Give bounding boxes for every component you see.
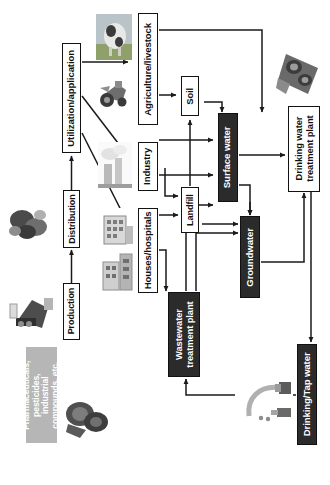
hospital-building-photo	[100, 248, 134, 292]
node-distribution[interactable]: Distribution	[63, 190, 80, 248]
node-utilization-label: Utilization/application	[66, 50, 77, 147]
node-groundwater[interactable]: Groundwater	[240, 216, 260, 298]
treatment-clarifier-photo	[272, 48, 324, 102]
node-production[interactable]: Production	[63, 283, 80, 340]
node-houses[interactable]: Houses/hospitals	[138, 208, 158, 293]
dwtp-line-1: Drinking water	[293, 116, 304, 182]
node-surface-water-label: Surface water	[223, 127, 234, 189]
edge-soil-surface	[204, 102, 222, 112]
sources-line-4: compounds, etc.	[51, 360, 61, 429]
node-agriculture[interactable]: Agriculture/livestock	[138, 13, 158, 125]
node-landfill[interactable]: Landfill	[181, 187, 199, 233]
node-sources: Pharmaceuticals, pesticides, industrial …	[26, 347, 57, 443]
node-drinking-tap-water[interactable]: Drinking/Tap water	[297, 344, 317, 445]
diagram-canvas: Pharmaceuticals, pesticides, industrial …	[0, 0, 330, 485]
edge-surface-ground-2	[239, 185, 250, 215]
node-groundwater-label: Groundwater	[245, 228, 256, 287]
node-soil-label: Soil	[185, 88, 196, 105]
faucet-photo	[235, 378, 293, 428]
node-dwtp-label: Drinking water treatment plant	[293, 116, 314, 182]
node-soil[interactable]: Soil	[181, 76, 199, 116]
node-drinking-tap-water-label: Drinking/Tap water	[302, 353, 313, 437]
edge-agriculture-surface	[159, 30, 262, 112]
tractor-photo	[96, 72, 132, 112]
cow-photo	[96, 14, 132, 60]
houses-photo	[100, 208, 134, 248]
laboratory-photo	[8, 288, 58, 336]
edge-ground-dwtp	[261, 193, 304, 262]
node-production-label: Production	[66, 288, 76, 335]
node-industry[interactable]: Industry	[138, 142, 158, 191]
node-agriculture-label: Agriculture/livestock	[143, 23, 154, 116]
edge-industry-landfill	[165, 168, 178, 196]
node-wwtp-label: Wastewater treatment plant	[173, 301, 194, 367]
node-drinking-water-treatment-plant[interactable]: Drinking water treatment plant	[288, 106, 320, 192]
pills-photo	[6, 200, 52, 244]
node-surface-water[interactable]: Surface water	[218, 113, 238, 202]
node-utilization[interactable]: Utilization/application	[62, 43, 81, 153]
wwtp-line-2: treatment plant	[184, 301, 195, 367]
wwtp-line-1: Wastewater	[173, 301, 184, 367]
edge-houses-wwtp	[159, 250, 166, 291]
factory-photo	[98, 142, 132, 188]
node-houses-label: Houses/hospitals	[143, 212, 154, 290]
node-industry-label: Industry	[143, 148, 154, 185]
node-landfill-label: Landfill	[185, 194, 195, 226]
node-wastewater-treatment-plant[interactable]: Wastewater treatment plant	[168, 292, 200, 377]
node-distribution-label: Distribution	[66, 194, 76, 243]
dwtp-line-2: treatment plant	[304, 116, 315, 182]
node-sources-label: Pharmaceuticals, pesticides, industrial …	[22, 360, 61, 429]
wastewater-tanks-photo	[60, 390, 112, 440]
edge-wwtp-ground	[196, 233, 238, 291]
